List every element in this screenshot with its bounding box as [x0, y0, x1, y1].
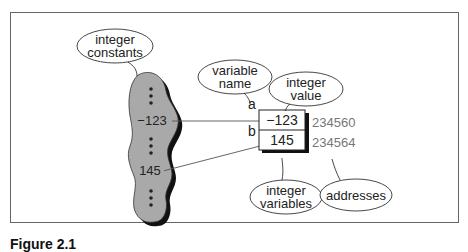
figure-caption: Figure 2.1 [10, 236, 76, 252]
callout-integer-variables: integer variables [251, 184, 321, 210]
callout-line: variables [251, 197, 321, 210]
callout-integer-constants: integer constants [80, 33, 150, 59]
address-a: 234560 [312, 116, 364, 129]
callout-line: constants [80, 46, 150, 59]
callout-line: name [200, 77, 270, 90]
constant-value: 145 [136, 164, 164, 177]
callout-addresses: addresses [321, 189, 391, 202]
callout-integer-value: integer value [271, 76, 341, 102]
constant-value: −123 [132, 114, 172, 127]
callout-line: value [271, 89, 341, 102]
variable-name-b: b [246, 125, 258, 138]
callout-variable-name: variable name [200, 64, 270, 90]
variable-value-b: 145 [259, 134, 305, 147]
variable-name-a: a [246, 98, 258, 111]
address-b: 234564 [312, 136, 364, 149]
variable-value-a: −123 [259, 114, 305, 127]
